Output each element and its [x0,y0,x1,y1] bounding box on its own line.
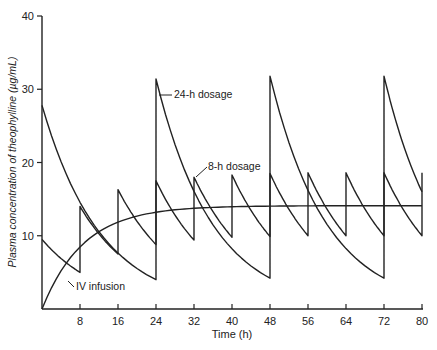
annotation-leader-iv [68,281,74,287]
series-lines [42,76,422,309]
x-tick-label: 48 [264,315,276,327]
y-tick-label: 20 [22,157,34,169]
x-tick-label: 72 [378,315,390,327]
y-axis-label: Plasma concentration of theophylline (µg… [6,57,18,268]
y-tick-label: 10 [22,230,34,242]
annotation-leader-8h [196,167,207,177]
y-tick-label: 40 [22,10,34,22]
x-tick-label: 32 [188,315,200,327]
x-tick-label: 24 [150,315,162,327]
y-ticks: 10203040 [22,10,42,242]
x-ticks: 8162432404856647280 [77,304,428,327]
concentration-chart: 10203040 8162432404856647280 Time (h) Pl… [0,0,437,350]
x-tick-label: 56 [302,315,314,327]
x-tick-label: 8 [77,315,83,327]
x-tick-label: 40 [226,315,238,327]
x-tick-label: 16 [112,315,124,327]
x-tick-label: 64 [340,315,352,327]
annotation-24h-dosage: 24-h dosage [174,88,233,100]
x-axis-label: Time (h) [212,328,253,340]
series-8-h-dosage [42,173,422,273]
annotation-iv-infusion: IV infusion [76,280,125,292]
x-tick-label: 80 [416,315,428,327]
y-tick-label: 30 [22,83,34,95]
annotation-8h-dosage: 8-h dosage [208,160,261,172]
